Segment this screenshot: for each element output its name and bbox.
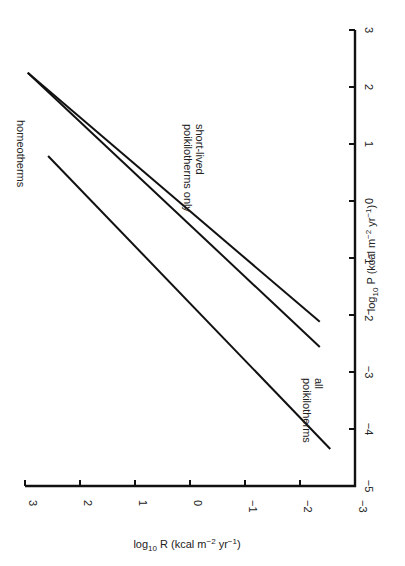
series-line-all-poikilotherms [28, 73, 320, 347]
label-all-poikilotherms: all [313, 378, 325, 389]
rp-regression-chart: 3210−1−2−33210−1−2−3−4−5 log10 R (kcal m… [0, 0, 405, 566]
label-all-poikilotherms: poikilotherms [301, 378, 313, 443]
label-homeotherms: homeotherms [15, 120, 27, 188]
r-axis-tick-label: 1 [137, 500, 149, 506]
labels: log10 R (kcal m−2 yr−1)log10 P (kcal m−2… [15, 120, 380, 553]
series-lines [28, 73, 331, 449]
p-axis-tick-label: 0 [363, 198, 375, 204]
p-axis-tick-label: 3 [363, 27, 375, 33]
series-line-short-lived-poikilotherms-only [28, 73, 320, 322]
p-axis-tick-label: −5 [363, 480, 375, 493]
r-axis-tick-label: 3 [27, 500, 39, 506]
p-axis-tick-label: 1 [363, 141, 375, 147]
r-axis-title: log10 R (kcal m−2 yr−1) [133, 537, 240, 553]
p-axis-tick-label: −4 [363, 423, 375, 436]
r-axis-tick-label: −2 [302, 500, 314, 513]
r-axis-tick-label: 0 [192, 500, 204, 506]
r-axis-tick-label: −1 [247, 500, 259, 513]
p-axis-title: log10 P (kcal m−2 yr−1) [364, 205, 380, 311]
label-short-lived-poikilotherms: poikilotherms only [182, 124, 194, 213]
r-axis-tick-label: −3 [357, 500, 369, 513]
label-short-lived-poikilotherms: short-lived [194, 124, 206, 175]
r-axis-tick-label: 2 [82, 500, 94, 506]
p-axis-tick-label: 2 [363, 84, 375, 90]
p-axis-tick-label: −3 [363, 366, 375, 379]
